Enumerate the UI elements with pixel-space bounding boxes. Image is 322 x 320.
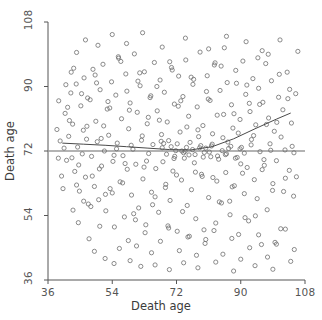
data-points [55,31,300,273]
x-tick-label-36: 36 [41,286,55,298]
x-tick-label-72: 72 [170,286,184,298]
x-axis-title: Death age [0,299,322,313]
y-axis-title: Death age [3,119,17,183]
x-tick-label-54: 54 [105,286,119,298]
x-tick-label-90: 90 [234,286,248,298]
x-tick-label-108: 108 [295,286,316,298]
y-tick-label-54: 54 [22,202,34,226]
plot-canvas [0,0,322,320]
y-tick-label-108: 108 [22,8,34,32]
trend-line [62,113,290,150]
scatter-plot-figure: 36547290108 36547290108 Death age Death … [0,0,322,320]
y-tick-label-90: 90 [22,73,34,97]
y-tick-label-72: 72 [22,137,34,161]
y-tick-label-36: 36 [22,266,34,290]
